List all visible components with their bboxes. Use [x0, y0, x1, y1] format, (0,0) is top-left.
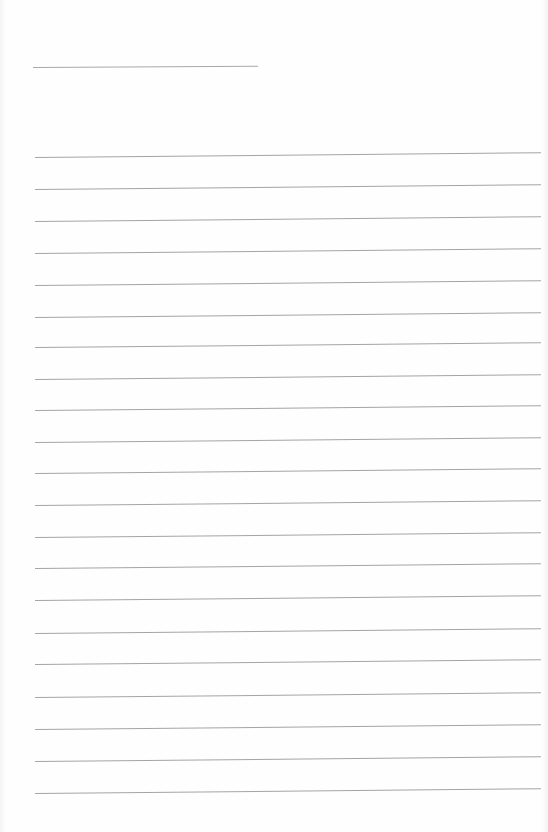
ruled-line [35, 374, 541, 380]
ruled-line [35, 184, 541, 190]
ruled-line [35, 405, 541, 411]
header-name-line [33, 66, 258, 68]
page-left-edge [0, 0, 6, 832]
ruled-line [35, 692, 541, 698]
ruled-line [35, 248, 541, 254]
ruled-line [35, 342, 541, 348]
ruled-paper-page [0, 0, 548, 832]
ruled-line [35, 659, 541, 665]
ruled-line [35, 437, 541, 443]
ruled-line [35, 532, 541, 538]
ruled-line [35, 280, 541, 286]
ruled-line [35, 468, 541, 474]
ruled-line [35, 563, 541, 569]
ruled-line [35, 724, 541, 730]
ruled-line [35, 595, 541, 601]
page-right-edge [542, 0, 548, 832]
ruled-line [35, 312, 541, 318]
ruled-line [35, 152, 541, 158]
ruled-line [35, 628, 541, 634]
ruled-line [35, 756, 541, 762]
ruled-line [35, 788, 541, 794]
ruled-line [35, 500, 541, 506]
ruled-line [35, 216, 541, 222]
